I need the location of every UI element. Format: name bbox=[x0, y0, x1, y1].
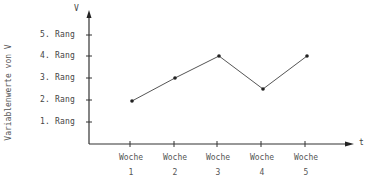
x-tick-number: 2 bbox=[155, 168, 195, 177]
x-axis-symbol: t bbox=[359, 138, 364, 147]
y-axis-arrow-icon bbox=[87, 10, 92, 18]
data-point bbox=[130, 99, 134, 103]
y-tick-label: 3. Rang bbox=[40, 73, 75, 82]
x-axis-arrow-icon bbox=[345, 142, 354, 147]
data-point bbox=[261, 87, 265, 91]
x-tick-word: Woche bbox=[242, 153, 282, 162]
y-tick-label: 1. Rang bbox=[40, 117, 75, 126]
y-tick-label: 5. Rang bbox=[40, 30, 75, 39]
y-axis-title: Variablenwerte von V bbox=[4, 38, 13, 148]
x-tick-word: Woche bbox=[155, 153, 195, 162]
y-axis-symbol: V bbox=[74, 4, 79, 13]
x-tick-number: 1 bbox=[111, 168, 151, 177]
data-point bbox=[173, 76, 177, 80]
x-tick-word: Woche bbox=[286, 153, 326, 162]
x-tick-number: 3 bbox=[198, 168, 238, 177]
x-tick-word: Woche bbox=[111, 153, 151, 162]
y-tick-label: 2. Rang bbox=[40, 95, 75, 104]
data-series-line bbox=[132, 56, 307, 101]
x-tick-number: 4 bbox=[242, 168, 282, 177]
x-tick-number: 5 bbox=[286, 168, 326, 177]
data-point bbox=[305, 54, 309, 58]
data-point bbox=[217, 54, 221, 58]
y-tick-label: 4. Rang bbox=[40, 51, 75, 60]
data-points bbox=[130, 54, 309, 103]
x-tick-word: Woche bbox=[198, 153, 238, 162]
